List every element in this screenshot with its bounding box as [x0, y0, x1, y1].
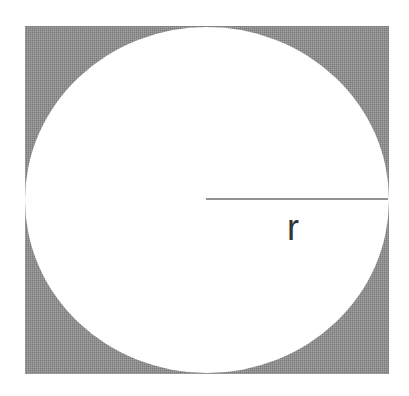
- radius-label: r: [287, 207, 299, 248]
- inscribed-circle-diagram: r: [0, 0, 409, 396]
- circle: [25, 27, 389, 373]
